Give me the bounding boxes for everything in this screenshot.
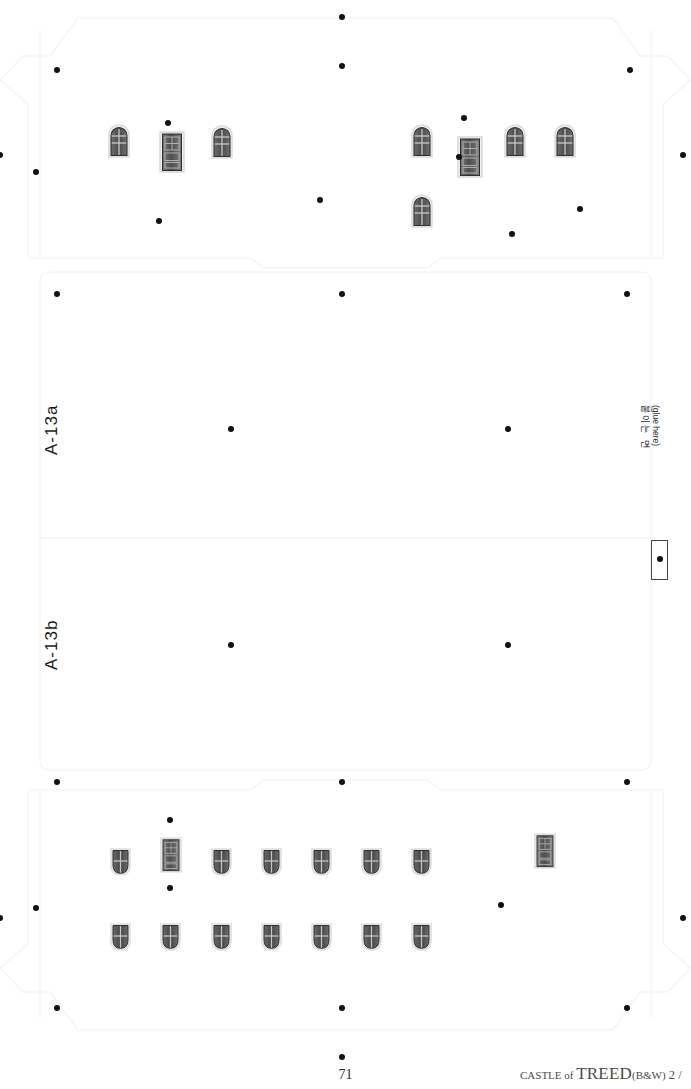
registration-dot (680, 915, 686, 921)
registration-dot (54, 779, 60, 785)
credit-title: TREED (576, 1064, 632, 1083)
registration-dot (624, 291, 630, 297)
glue-tab-registration-box (651, 540, 668, 580)
credit-variant: (B&W) (632, 1069, 666, 1081)
registration-dot (339, 1005, 345, 1011)
registration-dot (339, 1054, 345, 1060)
registration-dot (624, 1005, 630, 1011)
part-label-a13a: A-13a (42, 405, 62, 455)
shield-window-graphic (311, 847, 332, 876)
registration-dot (54, 67, 60, 73)
arched-window-graphic (504, 124, 526, 158)
papercraft-sheet: A-13aA-13b (glue here) 붙이는 면 71 CASTLE o… (0, 0, 691, 1089)
registration-dot (624, 779, 630, 785)
registration-dot (54, 1005, 60, 1011)
registration-dot (33, 905, 39, 911)
shield-window-graphic (411, 847, 432, 876)
shield-window-graphic (311, 922, 332, 951)
registration-dot (165, 120, 171, 126)
registration-dot (167, 885, 173, 891)
glue-tab-english-label: (glue here) (651, 405, 661, 446)
shield-window-graphic (261, 922, 282, 951)
registration-dot (228, 642, 234, 648)
glue-tab: (glue here) 붙이는 면 (645, 405, 679, 580)
shield-window-graphic (261, 847, 282, 876)
registration-dot (167, 817, 173, 823)
arched-window-graphic (211, 125, 233, 159)
registration-dot (461, 115, 467, 121)
registration-dot (156, 218, 162, 224)
registration-dot (339, 291, 345, 297)
sheet-credit-line: CASTLE of TREED(B&W) 2 / (520, 1064, 682, 1084)
registration-dot (339, 779, 345, 785)
registration-dot (505, 426, 511, 432)
shield-window-graphic (361, 847, 382, 876)
registration-dot (498, 902, 504, 908)
shield-window-graphic (361, 922, 382, 951)
arched-window-graphic (108, 124, 130, 158)
die-cut-lines (0, 0, 691, 1089)
registration-dot (627, 67, 633, 73)
part-label-a13b: A-13b (42, 620, 62, 670)
glue-tab-korean-label: 붙이는 면 (639, 405, 652, 450)
shield-window-graphic (110, 922, 131, 951)
registration-dot (54, 291, 60, 297)
registration-dot (456, 154, 462, 160)
small-door-graphic (534, 833, 556, 869)
small-door-graphic (160, 837, 182, 873)
registration-dot (317, 197, 323, 203)
credit-suffix: 2 / (666, 1068, 682, 1082)
registration-dot (505, 642, 511, 648)
registration-dot (339, 63, 345, 69)
registration-dot (680, 152, 686, 158)
shield-window-graphic (211, 922, 232, 951)
door-graphic (159, 131, 185, 173)
registration-dot (657, 556, 663, 562)
registration-dot (228, 426, 234, 432)
registration-dot (339, 14, 345, 20)
shield-window-graphic (211, 847, 232, 876)
registration-dot (509, 231, 515, 237)
arched-window-graphic (554, 124, 576, 158)
registration-dot (33, 169, 39, 175)
registration-dot (577, 206, 583, 212)
shield-window-graphic (411, 922, 432, 951)
shield-window-graphic (110, 847, 131, 876)
credit-prefix: CASTLE of (520, 1069, 576, 1081)
shield-window-graphic (160, 922, 181, 951)
arched-window-graphic (411, 194, 433, 228)
arched-window-graphic (411, 124, 433, 158)
